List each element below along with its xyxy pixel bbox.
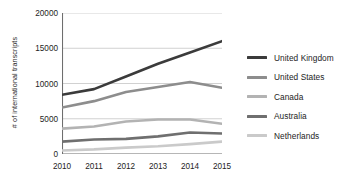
legend-item[interactable]: United Kingdom (247, 48, 359, 68)
x-tick-label: 2014 (181, 162, 199, 171)
legend-label: United Kingdom (274, 53, 334, 63)
legend-swatch-icon (247, 95, 267, 98)
legend-swatch-icon (247, 134, 267, 137)
legend-item[interactable]: Canada (247, 87, 359, 107)
legend-swatch-icon (247, 76, 267, 79)
legend: United KingdomUnited StatesCanadaAustral… (247, 48, 359, 146)
series-lines (62, 13, 222, 154)
x-tick-label: 2011 (85, 162, 103, 171)
y-tick-label: 0 (53, 150, 58, 159)
y-tick-label: 10000 (35, 79, 58, 88)
y-tick-label: 5000 (40, 114, 58, 123)
x-tick-label: 2012 (117, 162, 135, 171)
x-tick-label: 2015 (213, 162, 231, 171)
legend-label: United States (274, 72, 324, 82)
legend-item[interactable]: United States (247, 68, 359, 88)
x-tick-label: 2010 (53, 162, 71, 171)
x-tick-label: 2013 (149, 162, 167, 171)
y-tick-label: 20000 (35, 9, 58, 18)
legend-swatch-icon (247, 115, 267, 118)
series-line (62, 119, 222, 128)
series-line (62, 133, 222, 142)
y-axis-ticks: 05000100001500020000 (16, 0, 58, 186)
legend-label: Australia (274, 111, 307, 121)
legend-item[interactable]: Netherlands (247, 126, 359, 146)
legend-label: Netherlands (274, 131, 319, 141)
legend-item[interactable]: Australia (247, 107, 359, 127)
legend-swatch-icon (247, 56, 267, 59)
legend-label: Canada (274, 92, 303, 102)
plot-area (62, 13, 222, 154)
series-line (62, 41, 222, 95)
series-line (62, 82, 222, 107)
series-line (62, 142, 222, 151)
y-tick-label: 15000 (35, 44, 58, 53)
line-chart: # of international transcripts 050001000… (0, 0, 360, 186)
